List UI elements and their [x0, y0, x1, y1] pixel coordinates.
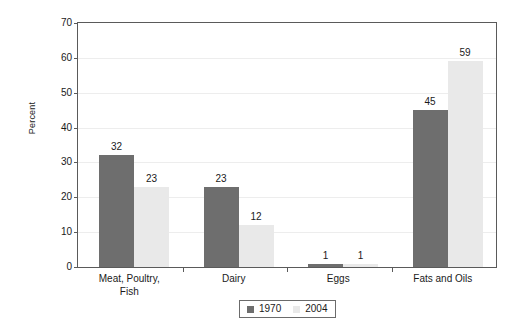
- y-axis-tick-label: 60: [32, 53, 72, 63]
- x-axis-category-label: Eggs: [286, 272, 391, 285]
- y-axis-tick-label: 40: [32, 123, 72, 133]
- bar-value-label: 59: [459, 48, 470, 58]
- bar-group: 11: [287, 23, 392, 267]
- legend-label: 1970: [259, 304, 281, 314]
- x-axis-category-label-line: Meat, Poultry,: [77, 272, 182, 285]
- bar[interactable]: 32: [99, 155, 134, 267]
- legend-item[interactable]: 1970: [247, 304, 281, 314]
- x-axis-category-label-line: Fats and Oils: [391, 272, 496, 285]
- bar[interactable]: 45: [413, 110, 448, 267]
- legend-swatch-icon: [247, 306, 254, 313]
- bar[interactable]: 23: [204, 187, 239, 267]
- bar[interactable]: 1: [343, 264, 378, 267]
- bar-value-label: 23: [146, 174, 157, 184]
- x-axis-category-label: Meat, Poultry,Fish: [77, 272, 182, 298]
- bar[interactable]: 12: [239, 225, 274, 267]
- bar-value-label: 23: [215, 174, 226, 184]
- plot-inner: 01020304050607032232312114559: [78, 23, 496, 267]
- bar-value-label: 12: [250, 212, 261, 222]
- legend-swatch-icon: [293, 306, 300, 313]
- bar-group: 4559: [392, 23, 497, 267]
- y-axis-tick-label: 50: [32, 88, 72, 98]
- bar-value-label: 1: [323, 251, 329, 261]
- x-axis-category-label-line: Fish: [77, 285, 182, 298]
- bar-value-label: 32: [111, 142, 122, 152]
- bar-chart-figure: Percent 01020304050607032232312114559 Me…: [0, 0, 524, 328]
- bar-group: 3223: [78, 23, 183, 267]
- y-axis-tick-label: 20: [32, 192, 72, 202]
- chart-legend: 19702004: [239, 300, 336, 318]
- bar[interactable]: 23: [134, 187, 169, 267]
- bar-value-label: 45: [424, 97, 435, 107]
- x-axis-category-label-line: Eggs: [286, 272, 391, 285]
- x-axis-category-label: Fats and Oils: [391, 272, 496, 285]
- y-axis-tick-label: 10: [32, 227, 72, 237]
- bar[interactable]: 59: [448, 61, 483, 267]
- legend-label: 2004: [305, 304, 327, 314]
- y-axis-tick-label: 30: [32, 157, 72, 167]
- legend-item[interactable]: 2004: [293, 304, 327, 314]
- bar-value-label: 1: [358, 251, 364, 261]
- y-axis-tick-mark: [74, 267, 78, 268]
- y-axis-tick-label: 0: [32, 262, 72, 272]
- x-axis-category-label-line: Dairy: [182, 272, 287, 285]
- x-axis-category-label: Dairy: [182, 272, 287, 285]
- bar-group: 2312: [183, 23, 288, 267]
- plot-area: 01020304050607032232312114559: [77, 22, 497, 268]
- bar[interactable]: 1: [308, 264, 343, 267]
- y-axis-tick-label: 70: [32, 18, 72, 28]
